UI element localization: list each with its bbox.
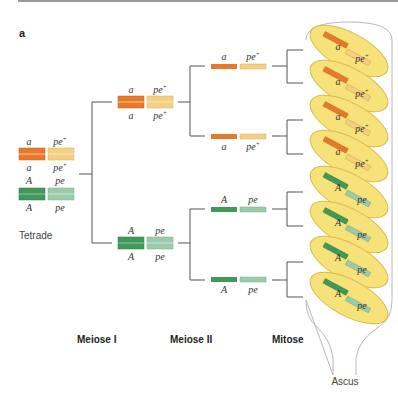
svg-text:A: A [334, 288, 342, 299]
ascus-label: Ascus [331, 376, 358, 387]
svg-text:pe: pe [356, 264, 367, 275]
svg-text:pe: pe [154, 251, 165, 262]
stage-label-meiose-2: Meiose II [170, 334, 212, 345]
svg-text:a: a [222, 51, 227, 62]
svg-text:a: a [129, 84, 134, 95]
svg-text:a: a [336, 41, 341, 52]
meiose-1-product-a: a pe+ a pe+ [118, 84, 173, 121]
svg-text:a: a [222, 141, 227, 152]
svg-text:A: A [127, 251, 135, 262]
svg-text:pe+: pe+ [245, 51, 260, 62]
allele-label: A [25, 175, 33, 186]
svg-text:A: A [220, 194, 228, 205]
svg-text:a: a [336, 146, 341, 157]
svg-text:A: A [334, 182, 342, 193]
tetrade-label: Tetrade [19, 230, 53, 241]
svg-text:A: A [127, 225, 135, 236]
svg-text:pe+: pe+ [152, 110, 167, 121]
svg-text:pe+: pe+ [152, 84, 167, 95]
allele-label: pe+ [52, 162, 67, 173]
tetrade: a pe+ a pe+ A pe A pe Tetrade [19, 136, 74, 241]
svg-text:a: a [129, 110, 134, 121]
allele-label: a [27, 162, 32, 173]
ascospores: a pe+ a pe+ a pe+ a pe+ A pe [303, 15, 396, 334]
allele-label: A [25, 202, 33, 213]
svg-text:pe: pe [247, 284, 258, 295]
svg-text:pe: pe [356, 194, 367, 205]
meiosis-diagram: a pe+ a pe+ A pe A pe Tetrade a pe+ a pe… [0, 0, 398, 399]
svg-text:pe: pe [247, 194, 258, 205]
svg-text:a: a [336, 76, 341, 87]
svg-text:pe+: pe+ [245, 141, 260, 152]
allele-label: pe [54, 175, 65, 186]
allele-label: pe [54, 202, 65, 213]
svg-text:pe: pe [356, 300, 367, 311]
allele-label: pe+ [52, 136, 67, 147]
meiose-2-brackets [178, 66, 205, 280]
svg-text:A: A [334, 217, 342, 228]
svg-text:pe: pe [356, 229, 367, 240]
svg-text:pe: pe [154, 225, 165, 236]
meiose-1-product-A: A pe A pe [118, 225, 173, 262]
stage-label-mitose: Mitose [272, 334, 304, 345]
stage-label-meiose-1: Meiose I [77, 334, 117, 345]
allele-label: a [27, 136, 32, 147]
meiose-2-products: a pe+ a pe+ A pe A pe [211, 51, 266, 295]
svg-text:A: A [334, 252, 342, 263]
svg-text:a: a [336, 111, 341, 122]
mitose-brackets [272, 50, 303, 297]
svg-text:A: A [220, 284, 228, 295]
meiose-1-bracket [79, 102, 112, 243]
